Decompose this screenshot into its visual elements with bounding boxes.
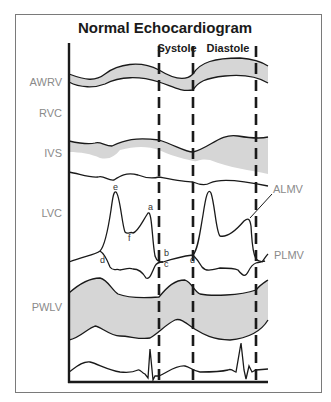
- point-c: c: [164, 259, 169, 269]
- label-rvc: RVC: [39, 107, 62, 119]
- ivs-band: [69, 136, 268, 186]
- point-f: f: [128, 233, 131, 243]
- plmv-leader: [262, 254, 268, 262]
- point-a: a: [148, 202, 153, 212]
- almv-leader: [250, 194, 272, 218]
- point-b: b: [164, 248, 169, 258]
- diagram-title: Normal Echocardiogram: [78, 19, 252, 36]
- label-plmv: PLMV: [274, 249, 305, 261]
- point-e: e: [113, 182, 118, 192]
- point-d2: d: [190, 255, 195, 265]
- diastole-label: Diastole: [207, 42, 250, 54]
- pwlv-band: [69, 278, 268, 340]
- ecg-trace: [69, 343, 268, 380]
- label-pwlv: PWLV: [32, 301, 63, 313]
- label-awrv: AWRV: [30, 76, 63, 88]
- label-lvc: LVC: [41, 207, 62, 219]
- echocardiogram-diagram: Normal Echocardiogram Systole Diastole A…: [0, 0, 331, 402]
- point-d: d: [100, 255, 105, 265]
- awrv-band: [69, 58, 268, 90]
- systole-label: Systole: [157, 42, 196, 54]
- label-ivs: IVS: [44, 147, 62, 159]
- label-almv: ALMV: [273, 183, 304, 195]
- plmv-trace: [100, 251, 265, 278]
